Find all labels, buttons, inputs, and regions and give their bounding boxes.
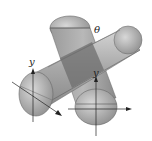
right-x-arrow-icon xyxy=(126,107,132,111)
theta-label: θ xyxy=(94,24,100,35)
left-y-label: y xyxy=(28,56,35,67)
left-y-arrow-icon xyxy=(31,68,35,74)
left-x-arrow-icon xyxy=(55,110,62,116)
cylinder-a-right-cap xyxy=(114,26,142,54)
cylinder-a-left-cap xyxy=(19,72,53,116)
right-y-label: y xyxy=(92,67,99,78)
cylinder-a-left-end xyxy=(19,72,53,116)
crossed-cylinders-diagram: y y θ xyxy=(0,0,152,141)
